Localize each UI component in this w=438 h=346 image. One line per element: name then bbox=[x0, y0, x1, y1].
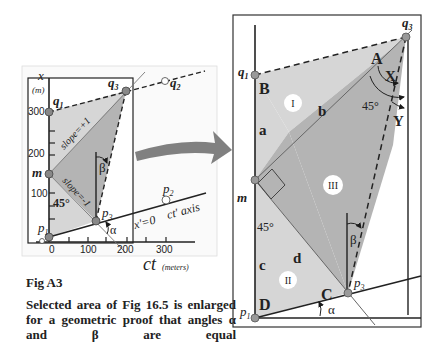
figure-caption: Fig A3 Selected area of Fig 16.5 is enla… bbox=[26, 275, 236, 342]
ct-unit: (meters) bbox=[162, 263, 189, 272]
tick-300: 300 bbox=[28, 106, 45, 117]
tick-100: 100 bbox=[31, 188, 48, 199]
small-figure: x (m) 300 200 100 0 100 200 300 ct (mete… bbox=[22, 66, 217, 274]
region-III: III bbox=[328, 180, 338, 191]
vertex-B: B bbox=[259, 80, 270, 97]
label-m: m bbox=[32, 165, 42, 180]
vertex-D: D bbox=[259, 296, 271, 313]
angle-45-top: 45° bbox=[362, 99, 379, 113]
side-d: d bbox=[293, 250, 302, 266]
large-label-m: m bbox=[237, 190, 247, 205]
caption-title: Fig A3 bbox=[26, 275, 236, 291]
vertex-C: C bbox=[321, 286, 333, 303]
large-angle-alpha: α bbox=[328, 302, 335, 317]
angle-45: 45° bbox=[53, 196, 70, 210]
angle-beta: β bbox=[99, 160, 106, 175]
angle-45-mid: 45° bbox=[257, 220, 274, 234]
large-figure: q1 q3 m p1 p3 A B C D a b c d I II III X… bbox=[233, 15, 421, 327]
xtick-0: 0 bbox=[49, 244, 55, 255]
xtick-300: 300 bbox=[156, 244, 173, 255]
side-b: b bbox=[318, 103, 326, 119]
region-I: I bbox=[291, 98, 294, 109]
large-angle-beta: β bbox=[350, 232, 357, 247]
caption-body: Selected area of Fig 16.5 is enlarged fo… bbox=[26, 297, 236, 342]
xtick-200: 200 bbox=[117, 244, 134, 255]
angle-alpha: α bbox=[110, 223, 117, 237]
angle-Y: Y bbox=[393, 113, 404, 129]
side-c: c bbox=[259, 257, 266, 273]
x-axis-label: x bbox=[37, 68, 44, 83]
side-a: a bbox=[259, 122, 267, 138]
vertex-A: A bbox=[371, 50, 383, 67]
ct-label: ct bbox=[143, 254, 157, 274]
region-II: II bbox=[285, 275, 292, 286]
angle-X: X bbox=[385, 68, 396, 84]
xtick-100: 100 bbox=[80, 244, 97, 255]
x-axis-unit: (m) bbox=[32, 85, 45, 95]
tick-200: 200 bbox=[28, 148, 45, 159]
